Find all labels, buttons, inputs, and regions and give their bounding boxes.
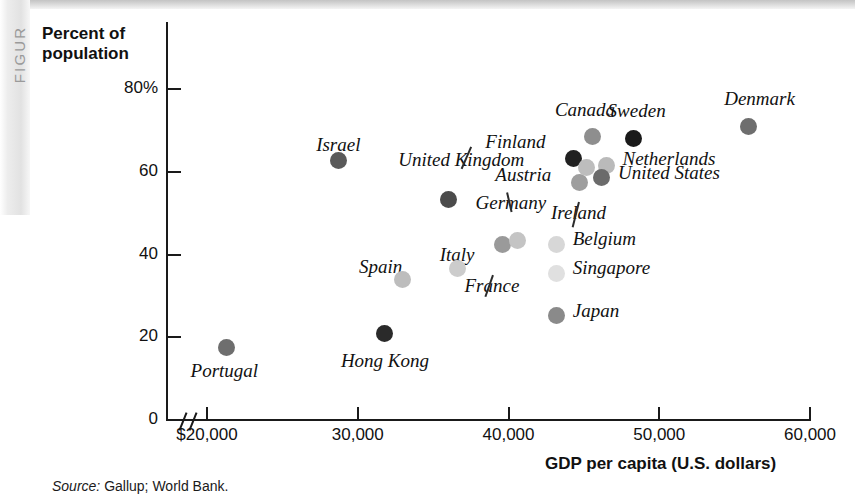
point-label: Denmark — [724, 88, 795, 110]
y-tick-label: 20 — [88, 326, 158, 346]
data-point[interactable] — [571, 174, 588, 191]
y-axis-title: Percent of population — [42, 24, 160, 64]
y-axis-title-line1: Percent of — [42, 24, 125, 43]
data-point[interactable] — [625, 130, 642, 147]
x-tick-mark — [357, 407, 359, 420]
x-tick-label: 40,000 — [449, 425, 569, 445]
data-point[interactable] — [548, 307, 565, 324]
point-label: Sweden — [608, 100, 666, 122]
x-tick-mark — [809, 407, 811, 420]
y-tick-mark — [168, 88, 181, 90]
source-prefix: Source: — [52, 478, 100, 494]
x-axis-line — [166, 419, 811, 421]
data-point[interactable] — [593, 169, 610, 186]
point-label: Japan — [573, 300, 619, 322]
data-point[interactable] — [548, 265, 565, 282]
point-label: Finland — [485, 131, 545, 153]
data-point[interactable] — [330, 152, 347, 169]
x-axis-title: GDP per capita (U.S. dollars) — [545, 454, 776, 474]
data-point[interactable] — [218, 339, 235, 356]
point-label: Singapore — [573, 257, 650, 279]
data-point[interactable] — [509, 232, 526, 249]
y-tick-mark — [168, 254, 181, 256]
y-tick-label: 40 — [88, 244, 158, 264]
data-point[interactable] — [440, 191, 457, 208]
data-point[interactable] — [548, 236, 565, 253]
y-tick-mark — [168, 171, 181, 173]
x-tick-mark — [508, 407, 510, 420]
point-label: Canada — [555, 99, 615, 121]
point-label: Hong Kong — [341, 350, 429, 372]
x-tick-label: 30,000 — [298, 425, 418, 445]
y-axis-line — [166, 22, 168, 420]
data-point[interactable] — [740, 118, 757, 135]
source-note: Source: Gallup; World Bank. — [52, 478, 228, 494]
x-tick-label: $20,000 — [147, 425, 267, 445]
x-tick-mark — [206, 407, 208, 420]
point-label: United States — [618, 162, 720, 184]
y-tick-label: 80% — [88, 78, 158, 98]
y-tick-mark — [168, 336, 181, 338]
data-point[interactable] — [584, 128, 601, 145]
x-tick-label: 60,000 — [750, 425, 855, 445]
y-tick-label: 60 — [88, 161, 158, 181]
point-label: Austria — [495, 164, 551, 186]
x-tick-label: 50,000 — [599, 425, 719, 445]
scatter-plot: Percent of population GDP per capita (U.… — [0, 0, 855, 455]
point-label: Portugal — [191, 360, 259, 382]
y-axis-title-line2: population — [42, 44, 129, 63]
source-text: Gallup; World Bank. — [100, 478, 228, 494]
x-tick-mark — [658, 407, 660, 420]
point-label: Belgium — [573, 228, 636, 250]
data-point[interactable] — [394, 271, 411, 288]
data-point[interactable] — [376, 325, 393, 342]
